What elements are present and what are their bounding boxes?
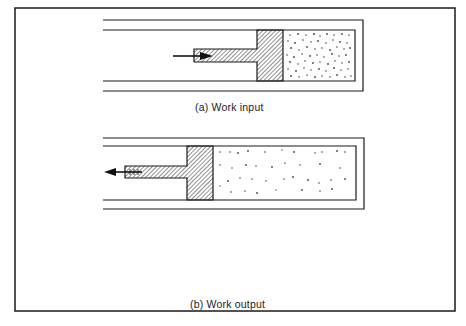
diagram-canvas <box>0 0 466 326</box>
caption-b: (b) Work output <box>190 298 265 310</box>
caption-a: (a) Work input <box>195 101 264 113</box>
gas-a-compressed <box>286 33 352 78</box>
gas-b-expanded <box>219 149 346 194</box>
